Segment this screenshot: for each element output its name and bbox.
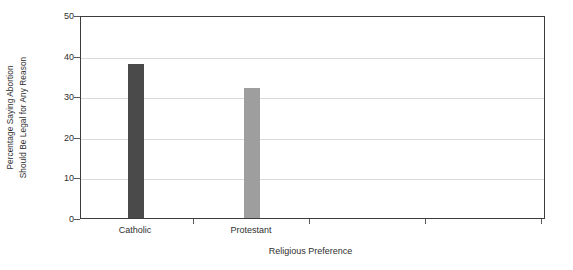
x-axis-title: Religious Preference — [0, 246, 573, 256]
y-axis-title: Percentage Saying Abortion Should Be Leg… — [0, 10, 34, 225]
x-tick-label-catholic: Catholic — [119, 225, 152, 235]
bar-chart-figure: Percentage Saying Abortion Should Be Leg… — [0, 0, 573, 270]
x-tick-mark — [309, 219, 310, 224]
y-tick-label: 20 — [46, 133, 74, 143]
y-tick-label: 50 — [46, 11, 74, 21]
x-axis-tick-labels: CatholicProtestant — [0, 225, 573, 239]
x-tick-mark — [425, 219, 426, 224]
y-axis-title-line-2: Should Be Legal for Any Reason — [17, 57, 30, 178]
x-axis-title-label: Religious Preference — [269, 246, 353, 256]
y-tick-label: 0 — [46, 214, 74, 224]
y-tick-label: 40 — [46, 52, 74, 62]
x-tick-label-protestant: Protestant — [230, 225, 271, 235]
y-tick-label: 10 — [46, 173, 74, 183]
bars-layer — [81, 17, 544, 218]
y-axis-title-line-1: Percentage Saying Abortion — [4, 65, 17, 169]
plot-area — [80, 16, 545, 219]
bar-catholic — [128, 64, 144, 218]
x-tick-mark — [541, 219, 542, 224]
bar-protestant — [244, 88, 260, 218]
y-tick-label: 30 — [46, 92, 74, 102]
x-tick-mark — [193, 219, 194, 224]
x-axis-tick-marks — [80, 219, 545, 224]
